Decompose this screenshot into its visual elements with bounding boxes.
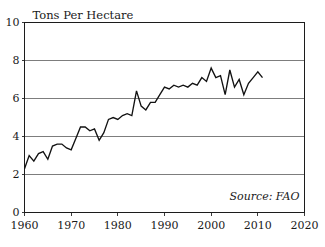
y-axis-tick-label: 6 [13,92,20,105]
x-axis-tick-label: 1980 [104,219,132,232]
x-axis-tick-label: 1970 [57,219,85,232]
chart-figure: 02468101960197019801990200020102020Tons … [0,0,325,247]
chart-axis-title-label: Tons Per Hectare [33,8,134,22]
y-axis-tick-label: 0 [13,206,20,219]
x-axis-tick-label: 2010 [244,219,272,232]
x-axis-tick-label: 2020 [291,219,319,232]
line-chart-canvas: 02468101960197019801990200020102020Tons … [0,0,325,247]
y-axis-tick-label: 2 [13,168,20,181]
x-axis-tick-label: 2000 [197,219,225,232]
y-axis-tick-label: 10 [6,16,20,29]
data-series-line [25,68,263,169]
x-axis-tick-label: 1960 [11,219,39,232]
y-axis-tick-label: 4 [13,130,20,143]
x-axis-tick-label: 1990 [151,219,179,232]
plot-area-frame [25,23,305,213]
y-axis-tick-label: 8 [13,54,20,67]
chart-source-annotation: Source: FAO [229,190,299,203]
